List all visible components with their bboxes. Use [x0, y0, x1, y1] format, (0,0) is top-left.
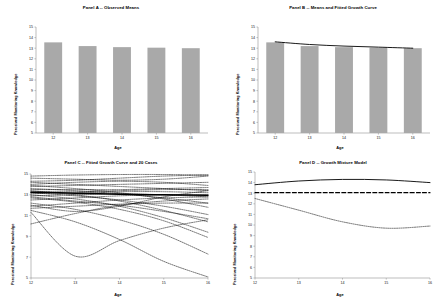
svg-text:9: 9: [253, 89, 255, 93]
svg-text:14: 14: [251, 36, 255, 40]
svg-text:15: 15: [248, 170, 252, 174]
svg-text:12: 12: [248, 202, 252, 206]
svg-text:16: 16: [206, 281, 210, 285]
svg-text:13: 13: [29, 47, 33, 51]
svg-text:13: 13: [308, 136, 312, 140]
svg-text:12: 12: [51, 136, 55, 140]
svg-text:5: 5: [31, 131, 33, 135]
svg-text:14: 14: [118, 281, 122, 285]
svg-text:16: 16: [189, 136, 193, 140]
svg-text:12: 12: [29, 281, 33, 285]
svg-text:14: 14: [120, 136, 124, 140]
svg-text:7: 7: [250, 255, 252, 259]
svg-text:15: 15: [251, 25, 255, 29]
svg-text:7: 7: [253, 110, 255, 114]
svg-text:15: 15: [154, 136, 158, 140]
panel-b-plot: 567891011121314151213141516: [222, 0, 444, 152]
svg-text:7: 7: [31, 110, 33, 114]
svg-text:14: 14: [341, 281, 345, 285]
svg-text:6: 6: [253, 121, 255, 125]
svg-text:9: 9: [26, 235, 28, 239]
svg-text:5: 5: [26, 276, 28, 280]
svg-text:10: 10: [251, 78, 255, 82]
svg-text:11: 11: [29, 68, 33, 72]
svg-text:15: 15: [376, 136, 380, 140]
svg-text:6: 6: [31, 121, 33, 125]
panel-c: Panel C -- Fitted Growth Curve and 20 Ca…: [0, 152, 222, 304]
svg-text:10: 10: [248, 223, 252, 227]
svg-text:15: 15: [162, 281, 166, 285]
svg-text:16: 16: [428, 281, 432, 285]
svg-text:15: 15: [29, 25, 33, 29]
svg-text:13: 13: [248, 192, 252, 196]
svg-text:12: 12: [253, 281, 257, 285]
svg-text:14: 14: [29, 36, 33, 40]
svg-text:12: 12: [251, 57, 255, 61]
svg-text:7: 7: [26, 256, 28, 260]
svg-text:12: 12: [29, 57, 33, 61]
panel-d: Panel D -- Growth Mixture Model Perceive…: [222, 152, 444, 304]
svg-text:13: 13: [297, 281, 301, 285]
svg-text:16: 16: [411, 136, 415, 140]
svg-text:5: 5: [250, 276, 252, 280]
svg-text:12: 12: [273, 136, 277, 140]
svg-text:8: 8: [250, 245, 252, 249]
svg-text:13: 13: [251, 47, 255, 51]
svg-text:9: 9: [31, 89, 33, 93]
svg-text:14: 14: [342, 136, 346, 140]
panel-a: Panel A -- Observed Means Perceived Moni…: [0, 0, 222, 152]
panel-b: Panel B -- Means and Fitted Growth Curve…: [222, 0, 444, 152]
panel-c-plot: 5791113151213141516: [0, 152, 222, 304]
svg-text:14: 14: [248, 181, 252, 185]
four-panel-figure: Panel A -- Observed Means Perceived Moni…: [0, 0, 444, 304]
svg-text:5: 5: [253, 131, 255, 135]
svg-text:15: 15: [24, 172, 28, 176]
panel-d-plot: 567891011121314151213141516: [222, 152, 444, 304]
svg-text:11: 11: [24, 214, 28, 218]
svg-text:15: 15: [384, 281, 388, 285]
svg-text:11: 11: [248, 213, 252, 217]
svg-text:6: 6: [250, 266, 252, 270]
svg-text:11: 11: [251, 68, 255, 72]
svg-text:13: 13: [86, 136, 90, 140]
panel-a-plot: 567891011121314151213141516: [0, 0, 222, 152]
svg-text:10: 10: [29, 78, 33, 82]
svg-text:9: 9: [250, 234, 252, 238]
svg-text:13: 13: [24, 193, 28, 197]
svg-text:13: 13: [73, 281, 77, 285]
svg-text:8: 8: [31, 100, 33, 104]
svg-text:8: 8: [253, 100, 255, 104]
